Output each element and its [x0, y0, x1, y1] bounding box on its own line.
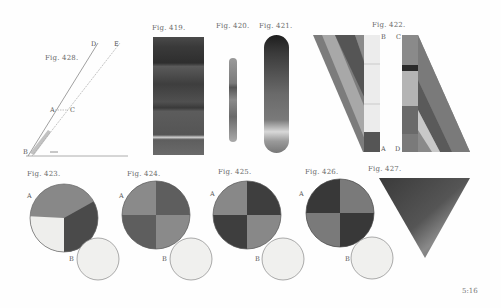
fig-422-label: Fig. 422.	[372, 21, 405, 29]
fig-423-label: Fig. 423.	[27, 170, 60, 178]
fig-422-left-prism	[313, 35, 380, 152]
fig-425-label: Fig. 425.	[218, 168, 251, 176]
point-b-423: B	[69, 255, 74, 263]
fig-427-triangle	[379, 178, 470, 258]
fig-419-band	[153, 37, 204, 155]
point-c-422: C	[396, 33, 401, 41]
point-a-426: A	[299, 190, 304, 198]
fig-425-disc-a	[212, 180, 283, 251]
fig-427-label: Fig. 427.	[368, 165, 401, 173]
point-a-425: A	[210, 190, 215, 198]
point-b-422: B	[381, 33, 386, 41]
fig-421-tube	[264, 35, 289, 153]
fig-425-disc-b	[262, 238, 304, 280]
fig-424-disc-b	[170, 238, 212, 280]
fig-421-label: Fig. 421.	[259, 22, 292, 30]
fig-420-rod	[229, 58, 237, 142]
fig-423-disc-b	[77, 238, 119, 280]
point-a: A	[50, 106, 55, 114]
point-d-422: D	[395, 145, 400, 153]
point-a-423: A	[27, 192, 32, 200]
fig-428-label: Fig. 428.	[45, 54, 78, 62]
fig-424-label: Fig. 424.	[127, 170, 160, 178]
point-d: D	[91, 40, 96, 48]
point-e: E	[114, 40, 119, 48]
fig-419-label: Fig. 419.	[152, 24, 185, 32]
plate-number: 5:16	[462, 287, 478, 295]
point-b: B	[23, 148, 28, 156]
fig-426-disc-b	[351, 237, 393, 279]
point-b-425: B	[255, 255, 260, 263]
point-c: C	[70, 106, 75, 114]
point-a-424: A	[119, 192, 124, 200]
fig-422-right-prism	[402, 35, 470, 152]
point-b-426: B	[345, 255, 350, 263]
plate-illustration	[0, 0, 501, 308]
fig-426-label: Fig. 426.	[305, 168, 338, 176]
fig-420-label: Fig. 420.	[216, 22, 249, 30]
point-b-424: B	[162, 255, 167, 263]
point-a-422: A	[381, 145, 386, 153]
